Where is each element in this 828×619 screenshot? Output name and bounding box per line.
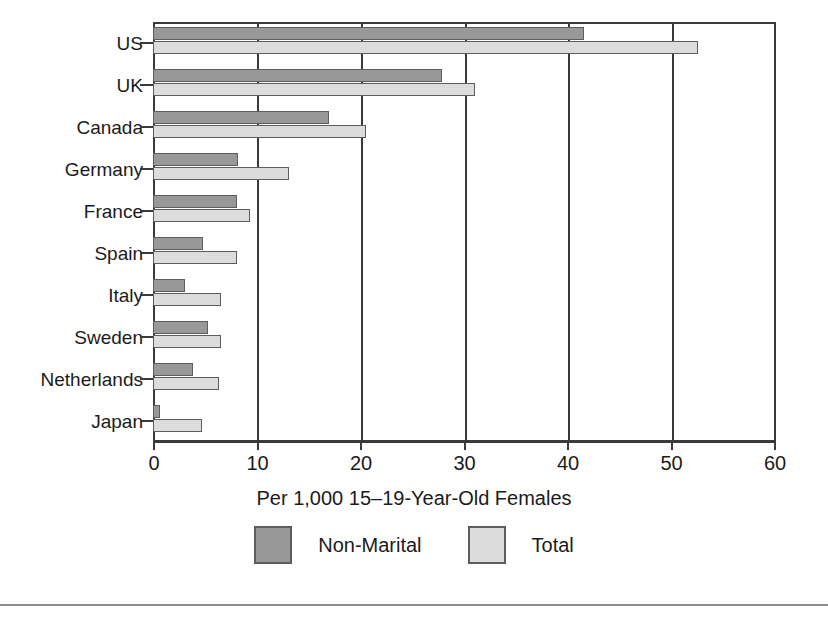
bar-row-uk xyxy=(153,64,776,106)
bar-row-us xyxy=(153,22,776,64)
x-axis-tick-label-60: 60 xyxy=(764,452,786,475)
x-axis-tick-label-0: 0 xyxy=(148,452,159,475)
chart-legend: Non-Marital Total xyxy=(0,526,828,564)
bar-row-france xyxy=(153,190,776,232)
bar-row-canada xyxy=(153,106,776,148)
y-axis-tick xyxy=(140,420,153,422)
y-axis-label-france: France xyxy=(0,190,153,232)
y-axis-tick xyxy=(140,168,153,170)
bar-germany-non-marital xyxy=(153,153,238,166)
bar-japan-total xyxy=(153,419,202,432)
x-axis-tick-0 xyxy=(153,441,155,450)
bar-italy-total xyxy=(153,293,221,306)
y-axis-label-japan: Japan xyxy=(0,400,153,442)
bar-uk-non-marital xyxy=(153,69,442,82)
bar-uk-total xyxy=(153,83,475,96)
y-axis-label-spain: Spain xyxy=(0,232,153,274)
x-axis-tick-30 xyxy=(464,441,466,450)
y-axis-label-canada: Canada xyxy=(0,106,153,148)
x-axis-tick-60 xyxy=(774,441,776,450)
y-axis-label-text: Netherlands xyxy=(41,370,153,389)
y-axis-labels: US UK Canada Germany France Spain Italy xyxy=(0,22,153,442)
legend-label-non-marital: Non-Marital xyxy=(318,534,421,557)
bar-sweden-total xyxy=(153,335,221,348)
bar-group xyxy=(153,22,776,442)
y-axis-label-us: US xyxy=(0,22,153,64)
bar-row-sweden xyxy=(153,316,776,358)
y-axis-tick xyxy=(140,84,153,86)
x-axis-tick-label-10: 10 xyxy=(246,452,268,475)
y-axis-tick xyxy=(140,126,153,128)
x-axis-tick-40 xyxy=(567,441,569,450)
y-axis-label-netherlands: Netherlands xyxy=(0,358,153,400)
y-axis-tick xyxy=(140,378,153,380)
x-axis-title: Per 1,000 15–19-Year-Old Females xyxy=(0,487,828,510)
y-axis-label-germany: Germany xyxy=(0,148,153,190)
legend-swatch-total xyxy=(468,526,506,564)
x-axis-tick-20 xyxy=(360,441,362,450)
x-axis-tick-50 xyxy=(671,441,673,450)
y-axis-label-uk: UK xyxy=(0,64,153,106)
y-axis-tick xyxy=(140,42,153,44)
bar-japan-non-marital xyxy=(153,405,160,418)
bar-row-italy xyxy=(153,274,776,316)
bar-canada-total xyxy=(153,125,366,138)
bar-row-germany xyxy=(153,148,776,190)
bar-italy-non-marital xyxy=(153,279,185,292)
x-axis-tick-label-20: 20 xyxy=(350,452,372,475)
bar-us-total xyxy=(153,41,698,54)
y-axis-tick xyxy=(140,294,153,296)
bar-row-spain xyxy=(153,232,776,274)
bar-france-total xyxy=(153,209,250,222)
bar-netherlands-non-marital xyxy=(153,363,193,376)
bar-netherlands-total xyxy=(153,377,219,390)
bar-germany-total xyxy=(153,167,289,180)
figure-birth-rates-chart: US UK Canada Germany France Spain Italy xyxy=(0,0,828,619)
bar-row-netherlands xyxy=(153,358,776,400)
legend-swatch-non-marital xyxy=(254,526,292,564)
y-axis-tick xyxy=(140,210,153,212)
y-axis-tick xyxy=(140,336,153,338)
bar-sweden-non-marital xyxy=(153,321,208,334)
legend-item-non-marital: Non-Marital xyxy=(254,526,421,564)
x-axis-tick-label-50: 50 xyxy=(660,452,682,475)
y-axis-label-italy: Italy xyxy=(0,274,153,316)
bar-spain-non-marital xyxy=(153,237,203,250)
x-axis-tick-label-30: 30 xyxy=(453,452,475,475)
y-axis-label-sweden: Sweden xyxy=(0,316,153,358)
x-axis-tick-label-40: 40 xyxy=(557,452,579,475)
legend-item-total: Total xyxy=(468,526,574,564)
bar-row-japan xyxy=(153,400,776,442)
bar-canada-non-marital xyxy=(153,111,329,124)
bar-spain-total xyxy=(153,251,237,264)
x-axis-tick-10 xyxy=(257,441,259,450)
y-axis-tick xyxy=(140,252,153,254)
bar-us-non-marital xyxy=(153,27,584,40)
footer-rule xyxy=(0,604,828,606)
legend-label-total: Total xyxy=(532,534,574,557)
bar-france-non-marital xyxy=(153,195,237,208)
